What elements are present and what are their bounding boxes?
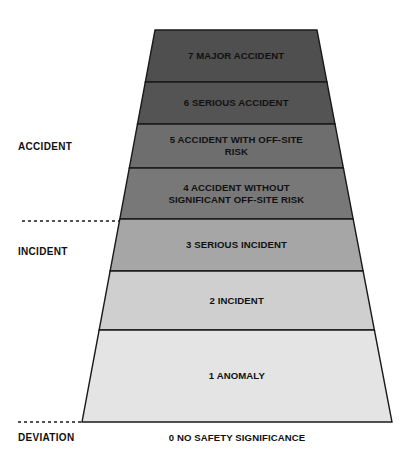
band-label-line: 2 INCIDENT [210, 294, 264, 305]
severity-band-level-4[interactable]: 4 ACCIDENT WITHOUTSIGNIFICANT OFF-SITE R… [120, 168, 353, 219]
category-label-incident: INCIDENT [18, 246, 68, 257]
band-label-level-1: 1 ANOMALY [209, 370, 266, 381]
band-label-line: RISK [225, 146, 248, 157]
severity-band-level-2[interactable]: 2 INCIDENT [99, 271, 374, 330]
band-label-level-2: 2 INCIDENT [210, 294, 264, 305]
severity-band-level-5[interactable]: 5 ACCIDENT WITH OFF-SITERISK [129, 124, 343, 168]
severity-band-level-6[interactable]: 6 SERIOUS ACCIDENT [137, 82, 334, 124]
ines-diagram-canvas: 7 MAJOR ACCIDENT6 SERIOUS ACCIDENT5 ACCI… [0, 0, 415, 465]
band-label-level-7: 7 MAJOR ACCIDENT [188, 50, 284, 61]
severity-band-level-7[interactable]: 7 MAJOR ACCIDENT [145, 30, 327, 82]
severity-band-level-3[interactable]: 3 SERIOUS INCIDENT [110, 219, 363, 271]
band-label-line: 4 ACCIDENT WITHOUT [183, 181, 289, 192]
category-label-accident: ACCIDENT [18, 141, 72, 152]
category-label-deviation: DEVIATION [18, 432, 74, 443]
category-labels-group: ACCIDENTINCIDENTDEVIATION [18, 141, 74, 443]
band-label-level-3: 3 SERIOUS INCIDENT [186, 239, 287, 250]
band-label-line: 5 ACCIDENT WITH OFF-SITE [170, 134, 304, 145]
base-label-no-safety-significance: 0 NO SAFETY SIGNIFICANCE [169, 432, 306, 443]
base-label-group: 0 NO SAFETY SIGNIFICANCE [169, 432, 306, 443]
band-label-line: 1 ANOMALY [209, 370, 266, 381]
ines-scale-pyramid: 7 MAJOR ACCIDENT6 SERIOUS ACCIDENT5 ACCI… [0, 0, 415, 465]
severity-bands-group: 7 MAJOR ACCIDENT6 SERIOUS ACCIDENT5 ACCI… [82, 30, 392, 422]
band-label-line: 7 MAJOR ACCIDENT [188, 50, 284, 61]
band-label-line: SIGNIFICANT OFF-SITE RISK [169, 193, 305, 204]
band-label-line: 3 SERIOUS INCIDENT [186, 239, 287, 250]
severity-band-level-1[interactable]: 1 ANOMALY [82, 330, 392, 422]
band-label-line: 6 SERIOUS ACCIDENT [184, 97, 289, 108]
band-label-level-6: 6 SERIOUS ACCIDENT [184, 97, 289, 108]
band-label-level-4: 4 ACCIDENT WITHOUTSIGNIFICANT OFF-SITE R… [169, 181, 305, 204]
